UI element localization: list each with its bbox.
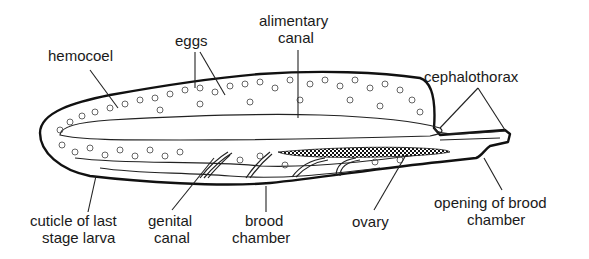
label-cuticle-line1: cuticle of last — [30, 212, 118, 229]
body-outline — [40, 72, 510, 185]
label-opening-line2: chamber — [467, 211, 525, 228]
label-cuticle-line2: stage larva — [42, 229, 116, 246]
label-eggs: eggs — [175, 32, 208, 49]
anatomy-diagram: hemocoel eggs alimentary canal cephaloth… — [0, 0, 589, 259]
label-brood-chamber-line2: chamber — [232, 229, 290, 246]
label-hemocoel: hemocoel — [48, 47, 113, 64]
label-genital-canal-line2: canal — [154, 229, 190, 246]
alimentary-canal-lumen — [60, 114, 442, 140]
label-opening-line1: opening of brood — [434, 194, 547, 211]
label-alimentary-canal-line2: canal — [278, 29, 314, 46]
label-brood-chamber-line1: brood — [245, 212, 283, 229]
ovary-structure — [278, 147, 450, 157]
label-ovary: ovary — [352, 213, 389, 230]
label-cephalothorax: cephalothorax — [424, 68, 519, 85]
label-genital-canal-line1: genital — [148, 212, 192, 229]
label-alimentary-canal-line1: alimentary — [259, 12, 329, 29]
